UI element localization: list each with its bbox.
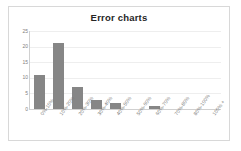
y-axis-tick-labels: 0510152025 (9, 31, 28, 109)
bar-slot (49, 31, 68, 109)
category-label-slot: 70%-80% (164, 111, 183, 145)
chart-title: Error charts (9, 12, 229, 23)
category-label-slot: 20%-30% (68, 111, 87, 145)
y-axis-tick-label: 0 (12, 107, 28, 112)
category-label-slot: 60%-70% (145, 111, 164, 145)
chart-frame: Error charts 0510152025 0%-10%10%-20%20%… (8, 6, 230, 141)
category-label-slot: 10%-20% (49, 111, 68, 145)
bar-slot (30, 31, 49, 109)
category-label-slot: 80%-100% (183, 111, 202, 145)
category-label-slot: 50%-60% (126, 111, 145, 145)
category-axis-labels: 0%-10%10%-20%20%-30%30%-40%40%-50%50%-60… (30, 111, 221, 145)
category-label-slot: 40%-50% (106, 111, 125, 145)
y-axis-tick-label: 10 (12, 75, 28, 80)
y-axis-tick-label: 5 (12, 91, 28, 96)
y-axis-tick-label: 15 (12, 60, 28, 65)
bar[interactable] (34, 75, 45, 109)
bar[interactable] (53, 43, 64, 109)
y-axis-tick-label: 20 (12, 44, 28, 49)
category-label-slot: 100% + (202, 111, 221, 145)
category-label-slot: 0%-10% (30, 111, 49, 145)
y-axis-tick-label: 25 (12, 29, 28, 34)
category-label-slot: 30%-40% (87, 111, 106, 145)
